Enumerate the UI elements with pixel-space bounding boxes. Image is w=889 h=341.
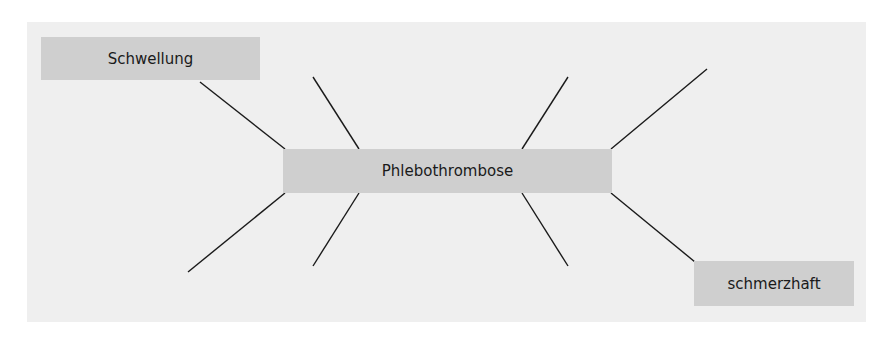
- branch-label: schmerzhaft: [727, 275, 820, 293]
- branch-line-bottom-right: [611, 193, 695, 262]
- branch-line-bottom-inner-right: [522, 193, 568, 266]
- center-node: Phlebothrombose: [283, 149, 612, 193]
- branch-line-top-left: [200, 82, 285, 149]
- center-label: Phlebothrombose: [382, 162, 513, 180]
- branch-line-bottom-left: [188, 193, 285, 272]
- branch-label: Schwellung: [108, 50, 194, 68]
- branch-line-top-inner-right: [522, 77, 568, 149]
- branch-line-top-inner-left: [313, 77, 359, 149]
- branch-node-schmerzhaft: schmerzhaft: [694, 261, 854, 306]
- branch-line-bottom-inner-left: [313, 193, 359, 266]
- branch-line-top-right: [611, 69, 707, 149]
- branch-node-schwellung: Schwellung: [41, 37, 260, 80]
